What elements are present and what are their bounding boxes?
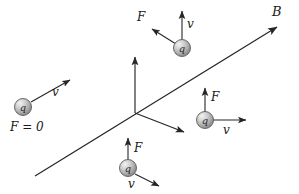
particle-right-velocity-label: v bbox=[223, 124, 230, 136]
particle-left-group: q bbox=[15, 80, 71, 116]
axis-diagonal bbox=[135, 113, 184, 132]
magnetic-field-line-b bbox=[35, 27, 277, 176]
particle-left-force-zero-label: F = 0 bbox=[10, 121, 44, 133]
magnetic-field-label-b: B bbox=[272, 5, 282, 18]
particle-top-force-label: F bbox=[137, 11, 145, 23]
particle-bottom-force-label: F bbox=[134, 142, 142, 154]
particle-left-velocity-arrow bbox=[31, 80, 70, 102]
particle-right-force-label: F bbox=[211, 91, 219, 103]
particle-top-group: q bbox=[152, 11, 191, 57]
diagram-canvas: q q q q bbox=[0, 0, 299, 194]
particle-right-group: q bbox=[197, 88, 247, 129]
particle-bottom-velocity-label: v bbox=[128, 178, 135, 190]
particle-top-force-arrow bbox=[152, 29, 176, 44]
particle-left-velocity-label: v bbox=[52, 86, 59, 98]
particle-bottom-velocity-arrow bbox=[135, 174, 159, 186]
particle-top-velocity-label: v bbox=[187, 18, 194, 30]
particle-right-charge-label: q bbox=[202, 115, 208, 126]
particle-bottom-charge-label: q bbox=[125, 163, 131, 174]
particle-left-charge-label: q bbox=[20, 102, 26, 113]
physics-diagram-magnetic-force: q q q q B v F = 0 v F v F v F bbox=[0, 0, 299, 194]
particle-top-charge-label: q bbox=[179, 43, 185, 54]
